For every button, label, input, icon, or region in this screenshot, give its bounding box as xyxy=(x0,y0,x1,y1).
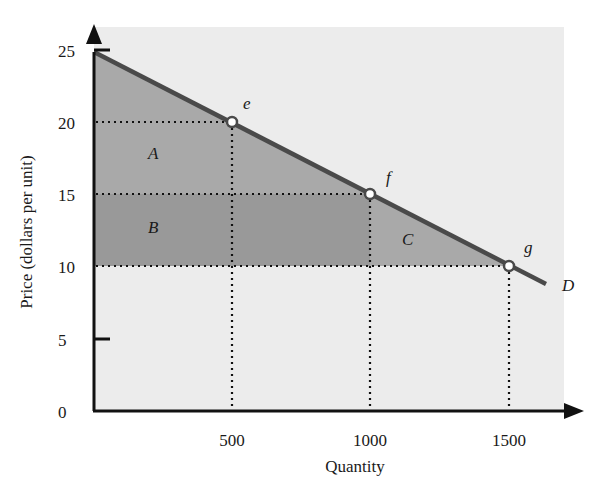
y-label-10: 10 xyxy=(58,258,75,277)
x-label-1000: 1000 xyxy=(353,431,387,450)
y-label-0: 0 xyxy=(58,403,67,422)
demand-chart: 25 20 15 10 5 0 500 1000 1500 Quantity P… xyxy=(0,0,615,492)
region-label-b: B xyxy=(148,218,159,237)
y-label-20: 20 xyxy=(58,114,75,133)
x-axis-title: Quantity xyxy=(325,457,385,476)
x-label-500: 500 xyxy=(219,431,245,450)
curve-label-d: D xyxy=(561,276,575,295)
y-label-5: 5 xyxy=(58,331,67,350)
label-g: g xyxy=(524,238,533,257)
point-f xyxy=(365,189,375,199)
label-e: e xyxy=(243,94,251,113)
point-g xyxy=(504,261,514,271)
y-axis-title: Price (dollars per unit) xyxy=(17,155,36,308)
point-e xyxy=(227,117,237,127)
region-label-c: C xyxy=(402,230,414,249)
y-label-25: 25 xyxy=(58,42,75,61)
x-label-1500: 1500 xyxy=(492,431,526,450)
region-label-a: A xyxy=(147,144,159,163)
y-label-15: 15 xyxy=(58,186,75,205)
x-axis-arrow-icon xyxy=(564,403,584,419)
